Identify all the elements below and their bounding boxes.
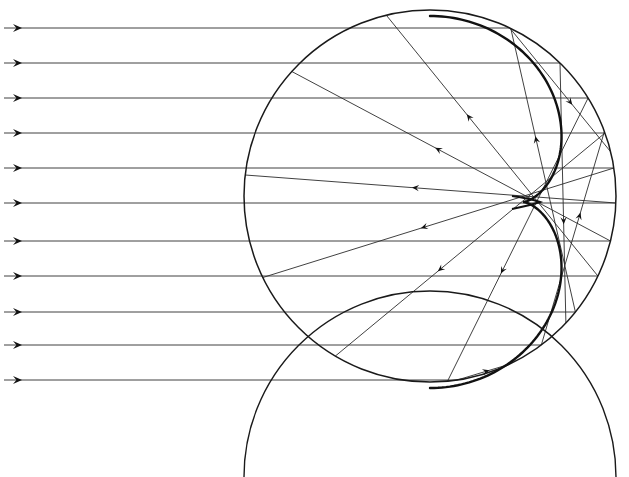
optics-diagram-canvas (0, 0, 629, 477)
figure-background (0, 0, 629, 477)
optics-figure (0, 0, 629, 477)
